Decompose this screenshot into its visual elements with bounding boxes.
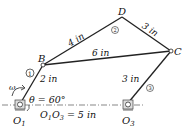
label-o3: O3 [122, 115, 135, 128]
label-bc: 6 in [92, 48, 109, 58]
label-o1b: 2 in [39, 74, 57, 84]
link-marker-1: 1 [26, 69, 34, 77]
svg-text:3: 3 [148, 85, 151, 91]
label-c: C [174, 46, 182, 57]
label-b: B [37, 53, 45, 64]
linkage-diagram: 1 2 3 B D C 4 in 3 in 6 in 2 in 3 in ω θ… [0, 0, 191, 132]
theta-arc-icon [27, 105, 29, 111]
label-d: D [117, 6, 126, 17]
ground-support-o1 [15, 100, 25, 110]
ground-support-o3 [123, 100, 133, 110]
svg-text:1: 1 [28, 70, 32, 77]
svg-text:2: 2 [113, 27, 116, 33]
label-o1o3-distance: O1O3 = 5 in [40, 109, 96, 122]
label-o3c: 3 in [122, 74, 139, 84]
link-marker-3: 3 [147, 85, 154, 92]
link-marker-2: 2 [112, 27, 119, 34]
joint-c [169, 49, 173, 53]
label-o1: O1 [13, 115, 26, 128]
label-theta: θ = 60° [29, 94, 66, 105]
label-omega: ω [9, 83, 16, 92]
label-bd: 4 in [65, 31, 86, 49]
